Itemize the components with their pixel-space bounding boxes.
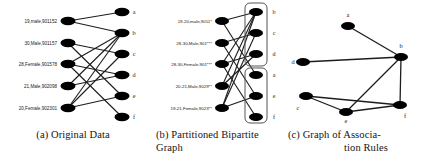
edge-b-f [400,57,401,105]
caption-panel-a: (a) Original Data [6,128,140,141]
panel-original-data: 19,male,901152 30,Male,901157 28,Female,… [0,0,146,164]
item-label-d: d [132,71,136,78]
record-label-4: 21,Male,902098 [24,84,57,89]
panel-a-item-labels: a b c d e f [132,8,136,120]
record-label-3: 28,Female,901578 [19,62,58,67]
rule-label-b: b [399,42,402,49]
node-partitioned-f[interactable] [249,113,263,121]
edge-r1-b [68,21,122,33]
rule-label-e: e [345,117,348,124]
panel-b-graph: 19-20,male,9011* 28-30,Male,901*** 28-30… [146,0,288,126]
partitioned-label-e: e [273,93,276,99]
node-item-d[interactable] [115,71,130,79]
partitioned-label-b: b [273,9,276,15]
generalized-label-1: 19-20,male,9011* [178,19,213,24]
node-item-c[interactable] [115,50,130,58]
node-rule-e[interactable] [339,108,353,116]
item-label-e: e [133,92,136,99]
panel-c-graph: a b c d e f [288,0,427,126]
caption-panel-c-line2: tion Rules [288,141,426,154]
caption-panel-b-line1: (b) Partitioned Bipartite [156,129,259,140]
generalized-label-3: 28-30,Female,901*** [171,62,212,67]
node-item-f[interactable] [115,113,130,121]
panel-a-right-nodes [115,8,130,121]
node-item-e[interactable] [115,92,130,100]
node-partitioned-c[interactable] [249,29,263,37]
rule-label-d: d [291,58,295,65]
node-record-4[interactable] [61,82,76,90]
node-record-3[interactable] [61,60,76,68]
node-rule-d[interactable] [296,58,310,66]
node-rule-c[interactable] [299,92,313,100]
caption-panel-b-line2: Graph [156,141,298,154]
node-partitioned-a[interactable] [249,71,263,79]
caption-panel-b: (b) Partitioned Bipartite Graph [148,128,298,154]
item-label-f: f [133,113,136,120]
edge-c-f [306,96,400,105]
edge-r5-c [68,54,122,108]
caption-panel-c: (c) Graph of Associa- tion Rules [288,128,426,154]
node-generalized-2[interactable] [215,39,229,47]
item-label-c: c [133,50,136,57]
item-label-b: b [132,29,135,36]
node-rule-b[interactable] [394,53,408,61]
node-generalized-5[interactable] [215,104,229,112]
record-label-5: 20,Female,902301 [19,106,58,111]
node-record-5[interactable] [61,104,76,112]
panel-c-edges [303,26,401,112]
panel-b-item-labels: b c d a e f [273,9,276,120]
node-generalized-4[interactable] [215,82,229,90]
generalized-label-5: 19-21,Female,9023** [171,106,213,111]
partitioned-label-c: c [273,30,276,36]
edge-a-b [348,26,401,57]
node-generalized-3[interactable] [215,60,229,68]
item-label-a: a [133,8,136,15]
panel-c-nodes [296,22,408,116]
panel-partitioned-bipartite-graph: 19-20,male,9011* 28-30,Male,901*** 28-30… [146,0,288,164]
panel-b-generalized-labels: 19-20,male,9011* 28-30,Male,901*** 28-30… [171,19,213,111]
generalized-label-4: 20-21,Male,9029** [176,84,213,89]
rule-label-c: c [297,104,300,111]
node-record-1[interactable] [61,17,76,25]
node-rule-a[interactable] [341,22,355,30]
edge-r3-f [68,64,122,117]
panel-a-left-nodes [61,17,76,112]
partitioned-label-d: d [273,51,276,57]
rule-label-f: f [404,112,407,119]
caption-panel-c-line1: (c) Graph of Associa- [288,129,381,140]
edge-r3-d [68,64,122,75]
node-record-2[interactable] [61,39,76,47]
panel-a-record-labels: 19,male,901152 30,Male,901157 28,Female,… [19,19,58,111]
record-label-2: 30,Male,901157 [24,41,57,46]
edge-d-b [303,57,401,62]
node-partitioned-e[interactable] [249,92,263,100]
partitioned-label-f: f [273,114,275,120]
node-partitioned-b[interactable] [249,8,263,16]
node-rule-f[interactable] [393,101,407,109]
panel-a-graph: 19,male,901152 30,Male,901157 28,Female,… [0,0,146,126]
record-label-1: 19,male,901152 [24,19,57,24]
edge-e-f [346,105,400,112]
panel-graph-of-association-rules: a b c d e f (c) Graph of Associa- tion R… [288,0,427,164]
node-partitioned-d[interactable] [249,50,263,58]
partitioned-label-a: a [273,72,276,78]
node-item-a[interactable] [115,8,130,16]
edge-r5-e [68,96,122,108]
rule-label-a: a [347,11,350,18]
node-generalized-1[interactable] [215,17,229,25]
figure-association-rule-anonymization: 19,male,901152 30,Male,901157 28,Female,… [0,0,427,164]
node-item-b[interactable] [115,29,130,37]
generalized-label-2: 28-30,Male,901*** [176,41,212,46]
panel-a-edges [68,12,122,117]
edge-r1-a [68,12,122,21]
